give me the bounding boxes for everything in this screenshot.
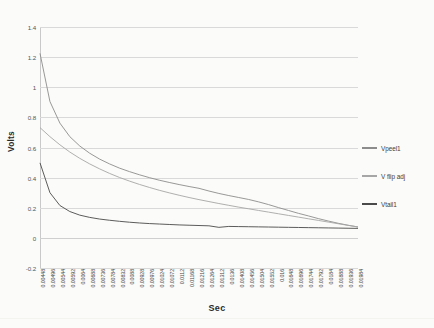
legend-item[interactable]: V flip adj bbox=[362, 162, 434, 190]
x-tick-label: 0.01456 bbox=[249, 269, 255, 287]
x-tick-label: 0.00928 bbox=[139, 269, 145, 287]
x-tick-label: 0.00448 bbox=[40, 269, 46, 287]
x-tick-label: 0.01984 bbox=[358, 269, 364, 287]
x-tick-label: 0.00976 bbox=[149, 269, 155, 287]
x-tick-label: 0.01168 bbox=[189, 269, 195, 287]
y-tick-label: 1 bbox=[33, 84, 36, 91]
x-tick-label: 0.00688 bbox=[90, 269, 96, 287]
legend-item[interactable]: Vtail1 bbox=[362, 190, 434, 218]
legend-swatch-icon bbox=[362, 147, 377, 148]
x-tick-label: 0.01552 bbox=[269, 269, 275, 287]
x-tick-label: 0.01504 bbox=[259, 269, 265, 287]
x-tick-label: 0.0184 bbox=[328, 269, 334, 285]
y-tick-label: 0 bbox=[33, 234, 36, 241]
legend-swatch-icon bbox=[362, 203, 377, 204]
x-tick-label: 0.01408 bbox=[239, 269, 245, 287]
series-line-vtail1 bbox=[40, 163, 358, 229]
x-tick-label: 0.01024 bbox=[159, 269, 165, 287]
x-tick-label: 0.0088 bbox=[129, 269, 135, 285]
y-tick-label: 0.2 bbox=[28, 204, 36, 211]
legend-item[interactable]: Vpeel1 bbox=[362, 134, 434, 162]
x-tick-label: 0.01792 bbox=[318, 269, 324, 287]
x-tick-label: 0.00544 bbox=[60, 269, 66, 287]
x-tick-label: 0.00784 bbox=[110, 269, 116, 287]
y-tick-label: 1.2 bbox=[28, 54, 36, 61]
chart-screenshot: Volts 1.41.210.80.60.40.20-0.2 0.004480.… bbox=[0, 0, 434, 328]
x-tick-label: 0.01936 bbox=[348, 269, 354, 287]
legend-swatch-icon bbox=[362, 175, 377, 176]
series-line-v-flip-adj bbox=[40, 128, 358, 227]
legend-label: V flip adj bbox=[381, 173, 405, 180]
x-tick-label: 0.01648 bbox=[288, 269, 294, 287]
x-tick-label: 0.00832 bbox=[120, 269, 126, 287]
x-tick-labels: 0.004480.004960.005440.005920.00640.0068… bbox=[40, 269, 358, 303]
chart-legend: Vpeel1V flip adjVtail1 bbox=[362, 134, 434, 218]
legend-label: Vtail1 bbox=[381, 201, 397, 208]
x-tick-label: 0.01696 bbox=[298, 269, 304, 287]
series-line-vpeel1 bbox=[40, 53, 358, 227]
x-tick-label: 0.01744 bbox=[308, 269, 314, 287]
y-tick-label: 1.4 bbox=[28, 24, 36, 31]
x-tick-label: 0.01264 bbox=[209, 269, 215, 287]
y-tick-label: 0.8 bbox=[28, 114, 36, 121]
x-tick-label: 0.0136 bbox=[229, 269, 235, 285]
x-tick-label: 0.0064 bbox=[80, 269, 86, 285]
scan-artifact bbox=[0, 318, 434, 319]
legend-label: Vpeel1 bbox=[381, 145, 401, 152]
x-tick-label: 0.01312 bbox=[219, 269, 225, 287]
x-tick-label: 0.00496 bbox=[50, 269, 56, 287]
y-axis-title: Volts bbox=[6, 131, 16, 152]
y-tick-label: -0.2 bbox=[26, 265, 36, 272]
x-tick-label: 0.00736 bbox=[100, 269, 106, 287]
x-tick-label: 0.016 bbox=[279, 269, 285, 282]
x-tick-label: 0.0112 bbox=[179, 269, 185, 284]
y-tick-label: 0.4 bbox=[28, 174, 36, 181]
series-lines bbox=[40, 27, 358, 268]
x-tick-label: 0.01888 bbox=[338, 269, 344, 287]
x-tick-label: 0.01216 bbox=[199, 269, 205, 287]
y-tick-label: 0.6 bbox=[28, 144, 36, 151]
x-axis-title: Sec bbox=[0, 303, 434, 313]
x-tick-label: 0.01072 bbox=[169, 269, 175, 287]
plot-area: 1.41.210.80.60.40.20-0.2 bbox=[40, 27, 358, 268]
x-tick-label: 0.00592 bbox=[70, 269, 76, 287]
